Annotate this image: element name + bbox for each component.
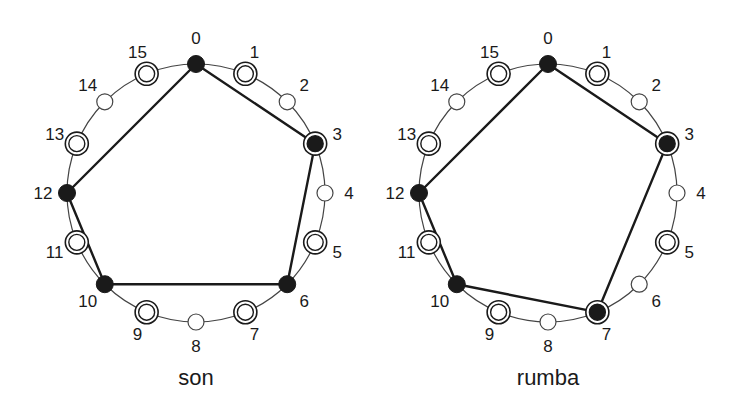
pulse-3 [304, 132, 327, 155]
pulse-1 [234, 62, 257, 85]
pulse-label-3: 3 [685, 125, 694, 144]
pulse-14 [97, 94, 113, 110]
rumba-caption: rumba [517, 365, 580, 390]
pulse-0 [540, 56, 557, 73]
pulse-label-1: 1 [602, 43, 611, 62]
pulse-label-10: 10 [78, 292, 97, 311]
pulse-9 [135, 301, 158, 324]
pulse-7 [586, 301, 609, 324]
pulse-15 [135, 62, 158, 85]
pulse-label-10: 10 [430, 292, 449, 311]
pulse-label-14: 14 [430, 76, 449, 95]
pulse-label-12: 12 [34, 184, 53, 203]
pulse-label-9: 9 [485, 325, 494, 344]
pulse-label-6: 6 [299, 292, 308, 311]
pulse-label-14: 14 [78, 76, 97, 95]
pulse-2 [279, 94, 295, 110]
pulse-1 [586, 62, 609, 85]
pulse-label-1: 1 [250, 43, 259, 62]
rhythm-necklace-figure: 0123456789101112131415 01234567891011121… [0, 0, 741, 410]
pulse-label-13: 13 [397, 125, 416, 144]
pulse-9 [487, 301, 510, 324]
pulse-0 [188, 56, 205, 73]
pulse-6 [631, 276, 647, 292]
pulse-label-15: 15 [480, 43, 499, 62]
pulse-5 [304, 231, 327, 254]
pulse-label-11: 11 [398, 243, 416, 262]
rumba-necklace-diagram: 0123456789101112131415 [386, 29, 706, 356]
pulse-label-13: 13 [45, 125, 64, 144]
pulse-label-3: 3 [333, 125, 342, 144]
pulse-4 [317, 185, 333, 201]
pulse-label-8: 8 [543, 337, 552, 356]
pulse-3 [656, 132, 679, 155]
pulse-label-8: 8 [191, 337, 200, 356]
pulse-2 [631, 94, 647, 110]
pulse-14 [449, 94, 465, 110]
pulse-label-7: 7 [250, 325, 259, 344]
pulse-12 [59, 185, 76, 202]
son-caption: son [178, 365, 213, 390]
pulse-8 [540, 314, 556, 330]
pulse-7 [234, 301, 257, 324]
pulse-5 [656, 231, 679, 254]
son-necklace-diagram: 0123456789101112131415 [34, 29, 354, 356]
pulse-label-11: 11 [46, 243, 64, 262]
pulse-6 [279, 276, 296, 293]
pulse-label-9: 9 [133, 325, 142, 344]
pulse-label-7: 7 [602, 325, 611, 344]
pulse-13 [417, 132, 440, 155]
pulse-label-5: 5 [333, 243, 342, 262]
pulse-label-0: 0 [543, 29, 552, 48]
pulse-4 [669, 185, 685, 201]
pulse-10 [448, 276, 465, 293]
pulse-12 [411, 185, 428, 202]
pulse-label-15: 15 [128, 43, 147, 62]
pulse-label-4: 4 [696, 184, 705, 203]
pulse-15 [487, 62, 510, 85]
pulse-11 [417, 231, 440, 254]
pulse-label-2: 2 [651, 76, 660, 95]
figure-canvas: 0123456789101112131415 01234567891011121… [0, 0, 741, 410]
pulse-13 [65, 132, 88, 155]
pulse-label-0: 0 [191, 29, 200, 48]
pulse-label-12: 12 [386, 184, 405, 203]
pulse-10 [96, 276, 113, 293]
pulse-label-6: 6 [651, 292, 660, 311]
pulse-11 [65, 231, 88, 254]
pulse-label-2: 2 [299, 76, 308, 95]
pulse-8 [188, 314, 204, 330]
pulse-label-4: 4 [344, 184, 353, 203]
pulse-label-5: 5 [685, 243, 694, 262]
